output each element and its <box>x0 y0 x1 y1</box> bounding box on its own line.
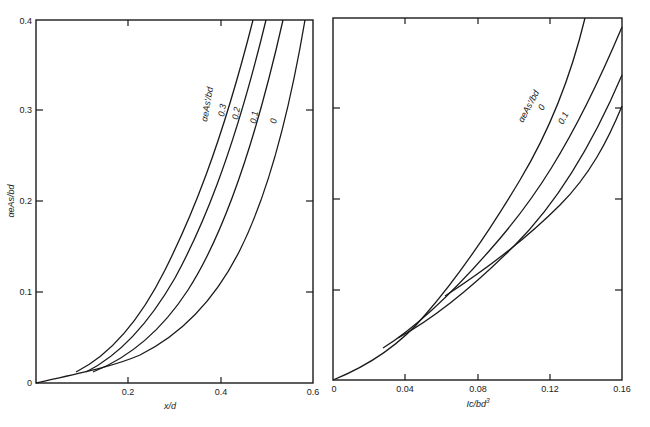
right-x-tick-label: 0.08 <box>469 384 487 394</box>
left-curve-label: 0.1 <box>248 110 260 124</box>
left-curve-0 <box>36 20 305 383</box>
right-x-axis-label: Ic/bd3 <box>466 397 490 409</box>
right-curve-0.2 <box>398 75 622 338</box>
right-x-tick-label: 0.16 <box>613 384 631 394</box>
right-plot-frame <box>333 18 622 380</box>
right-curve-0.3 <box>445 106 622 296</box>
left-curve-label: 0.3 <box>216 103 228 117</box>
figure: 0 0.1 0.2 0.3 0.4 0.2 0.4 0.6 x/d αeAs/b… <box>0 0 650 427</box>
left-y-tick-label: 0.1 <box>19 287 32 297</box>
right-x-tick-label: 0.04 <box>396 384 414 394</box>
left-x-tick-label: 0.6 <box>307 387 320 397</box>
right-chart: 0 0.04 0.08 0.12 0.16 Ic/bd3 αeAs'/bd 0 … <box>331 18 630 409</box>
left-x-axis-label: x/d <box>163 401 177 411</box>
left-x-tick-label: 0.2 <box>122 387 135 397</box>
right-curve-label: 0.1 <box>556 110 571 126</box>
left-curve-label: 0 <box>268 118 279 125</box>
left-plot-frame <box>36 20 313 383</box>
left-y-axis-label: αeAs/bd <box>6 183 16 217</box>
right-curve-0.1 <box>383 27 622 348</box>
left-curve-label: 0.2 <box>230 106 242 120</box>
left-y-tick-label: 0.3 <box>19 105 32 115</box>
left-curve-0.3 <box>76 20 253 372</box>
left-y-tick-label: 0.2 <box>19 196 32 206</box>
right-x-axis-label-main: Ic/bd <box>466 399 487 409</box>
left-y-tick-label: 0 <box>27 378 32 388</box>
left-x-tick-label: 0.4 <box>215 387 228 397</box>
right-curve-label: 0 <box>536 103 547 112</box>
left-chart: 0 0.1 0.2 0.3 0.4 0.2 0.4 0.6 x/d αeAs/b… <box>6 16 319 411</box>
left-legend-title: αeAs'/bd <box>199 85 215 122</box>
right-x-tick-label: 0.12 <box>541 384 559 394</box>
left-curve-0.1 <box>93 20 283 372</box>
right-curve-0 <box>333 18 585 380</box>
right-x-axis-label-superscript: 3 <box>486 397 490 404</box>
left-y-tick-label: 0.4 <box>19 16 32 26</box>
right-x-tick-label: 0 <box>331 384 336 394</box>
